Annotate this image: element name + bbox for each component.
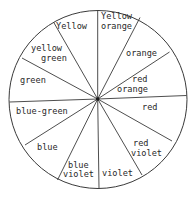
segment-labels: Yellow orange orange red orange red red … — [16, 11, 162, 179]
label-red-violet-line2: violet — [131, 148, 162, 158]
label-blue-green: blue-green — [16, 106, 68, 116]
label-yellow: Yellow — [56, 21, 88, 31]
label-orange: orange — [126, 48, 157, 58]
color-wheel-diagram: Yellow orange orange red orange red red … — [0, 0, 195, 198]
center-pivot — [96, 97, 100, 101]
label-red: red — [142, 102, 158, 112]
spoke-7 — [98, 99, 99, 189]
label-yellow-orange-line2: orange — [101, 21, 132, 31]
label-red-orange-line1: red — [132, 74, 148, 84]
label-violet: violet — [102, 168, 133, 178]
spoke-4 — [98, 96, 187, 100]
spoke-5 — [98, 99, 172, 141]
label-yellow-green-line1: yellow — [31, 43, 63, 53]
spoke-6 — [98, 99, 142, 175]
spoke-10 — [10, 99, 98, 102]
label-green: green — [20, 75, 46, 85]
label-red-violet-line1: red — [133, 138, 149, 148]
label-red-orange-line2: orange — [117, 84, 148, 94]
label-yellow-orange-line1: Yellow — [101, 11, 133, 21]
label-blue-violet-line2: violet — [63, 169, 94, 179]
label-blue: blue — [37, 142, 58, 152]
label-yellow-green-line2: green — [41, 53, 67, 63]
